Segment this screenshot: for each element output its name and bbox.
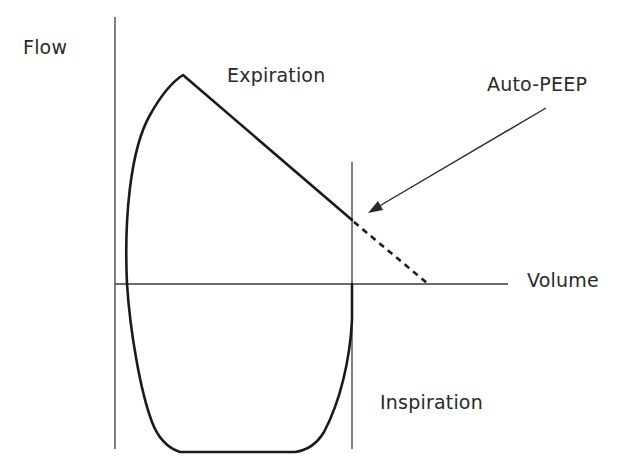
inspiration-label: Inspiration: [380, 393, 483, 412]
auto-peep-arrowhead-icon: [368, 201, 383, 213]
auto-peep-label: Auto-PEEP: [487, 75, 587, 94]
inspiratory-limb: [127, 284, 352, 452]
expiratory-limb: [126, 75, 352, 284]
expiration-label: Expiration: [227, 66, 325, 85]
auto-peep-arrow-shaft: [376, 108, 546, 208]
auto-peep-extrapolation: [354, 222, 427, 283]
volume-axis-label: Volume: [527, 271, 599, 290]
flow-axis-label: Flow: [23, 38, 67, 57]
